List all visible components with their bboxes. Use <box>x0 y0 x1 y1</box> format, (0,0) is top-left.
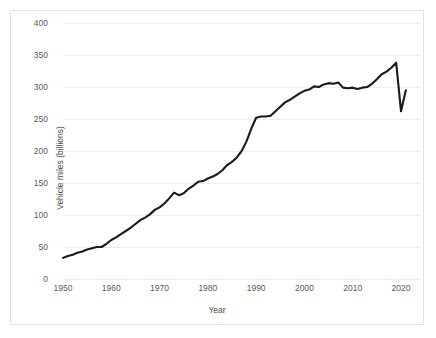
y-tick-label-200: 200 <box>34 147 48 156</box>
y-tick-label-50: 50 <box>39 243 48 252</box>
series-line-chart <box>53 13 421 289</box>
plot-area: 050100150200250300350400 195019601970198… <box>53 13 421 289</box>
y-tick-label-150: 150 <box>34 179 48 188</box>
series-line-vehicle-miles <box>63 63 406 258</box>
y-tick-label-250: 250 <box>34 115 48 124</box>
y-tick-label-400: 400 <box>34 19 48 28</box>
y-tick-label-0: 0 <box>43 275 48 284</box>
chart-figure: Vehicle miles (billions) 050100150200250… <box>10 10 424 325</box>
y-tick-label-100: 100 <box>34 211 48 220</box>
y-tick-label-300: 300 <box>34 83 48 92</box>
x-axis-title: Year <box>11 305 423 315</box>
y-tick-label-350: 350 <box>34 51 48 60</box>
